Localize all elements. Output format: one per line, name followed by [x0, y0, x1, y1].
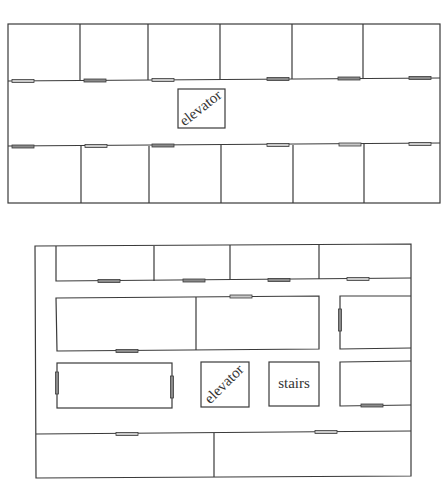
door[interactable]	[98, 280, 120, 283]
door[interactable]	[315, 431, 337, 434]
door[interactable]	[171, 376, 174, 398]
door[interactable]	[152, 79, 174, 82]
upper-corridor-top-wall	[8, 78, 440, 81]
upper-floor: elevator	[8, 24, 440, 203]
elevator-label: elevator	[201, 361, 246, 406]
lower-right-room-upper	[340, 296, 411, 349]
lower-left-room	[57, 363, 172, 408]
lower-top-rooms-wall	[56, 246, 411, 281]
floor-plan-diagram: elevator elevator	[0, 0, 445, 493]
door[interactable]	[339, 309, 342, 331]
door[interactable]	[116, 433, 138, 436]
stairs-label: stairs	[278, 375, 310, 391]
door[interactable]	[409, 143, 431, 146]
upper-floor-outline	[8, 24, 440, 203]
door[interactable]	[12, 80, 34, 83]
door[interactable]	[84, 79, 106, 82]
door[interactable]	[230, 295, 252, 298]
lower-right-room-lower	[340, 361, 411, 406]
door[interactable]	[338, 77, 360, 80]
door[interactable]	[409, 77, 431, 80]
door[interactable]	[267, 78, 289, 81]
lower-middle-block	[56, 296, 319, 351]
lower-stairs: stairs	[269, 362, 319, 406]
lower-bottom-rooms-wall	[36, 431, 411, 434]
door[interactable]	[267, 144, 289, 147]
door[interactable]	[12, 145, 34, 148]
upper-elevator: elevator	[177, 87, 225, 129]
lower-elevator: elevator	[201, 361, 249, 407]
door[interactable]	[361, 404, 383, 407]
door[interactable]	[268, 279, 290, 282]
upper-corridor-bottom-wall	[8, 143, 440, 146]
door[interactable]	[116, 350, 138, 353]
door[interactable]	[56, 372, 59, 394]
door[interactable]	[339, 143, 361, 146]
door[interactable]	[347, 278, 369, 281]
door[interactable]	[183, 279, 205, 282]
door[interactable]	[85, 145, 107, 148]
elevator-label: elevator	[177, 87, 225, 129]
lower-floor: elevator stairs	[35, 244, 411, 478]
door[interactable]	[152, 144, 174, 147]
